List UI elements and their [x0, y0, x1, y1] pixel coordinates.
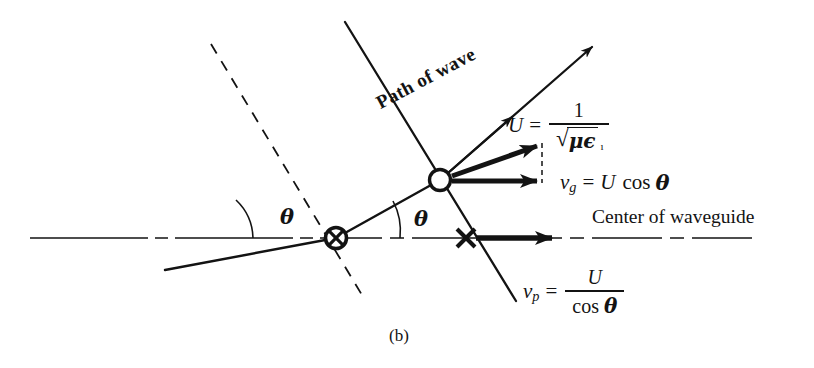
phase-velocity-formula: vp = U cosθ: [523, 266, 626, 318]
wave-ray-lower-segment: [165, 238, 336, 270]
group-velocity-subscript: g: [569, 179, 576, 196]
wave-velocity-formula: U = 1 √ μϵ ı: [508, 99, 611, 153]
wave-velocity-numerator: 1: [567, 99, 591, 123]
phase-velocity-cos: cos: [572, 295, 599, 317]
phase-velocity-denominator: cosθ: [565, 292, 624, 318]
phase-velocity-numerator: U: [581, 266, 609, 290]
center-of-waveguide-label: Center of waveguide: [592, 207, 754, 227]
wave-velocity-lhs: U: [508, 113, 523, 138]
diagram-canvas: [0, 0, 814, 368]
trailing-mark: ı: [600, 140, 603, 152]
group-velocity-rhs-var: U: [600, 170, 615, 195]
phase-velocity-symbol: v: [523, 279, 532, 304]
group-velocity-symbol: v: [560, 170, 569, 195]
wave-velocity-denominator: √ μϵ ı: [549, 125, 609, 153]
theta-label-right: θ: [414, 208, 428, 229]
figure-caption: (b): [389, 327, 409, 344]
square-root-group: √ μϵ: [556, 127, 598, 153]
phase-velocity-equals: =: [545, 279, 557, 304]
group-velocity-cos: cos: [622, 170, 650, 195]
open-circle-node: [430, 170, 451, 191]
path-of-wave-direction-arrow: [440, 117, 512, 180]
phase-velocity-fraction: U cosθ: [565, 266, 624, 318]
wave-velocity-equals: =: [529, 113, 541, 138]
dashed-normal-line: [211, 44, 365, 300]
waveguide-ray-figure: θ θ Path of wave Center of waveguide (b)…: [0, 0, 814, 368]
group-velocity-theta: θ: [655, 170, 669, 195]
group-velocity-formula: vg = U cos θ: [560, 170, 670, 195]
theta-arc-left: [236, 200, 253, 238]
wave-velocity-fraction: 1 √ μϵ ı: [549, 99, 609, 153]
theta-label-left: θ: [280, 206, 294, 227]
phase-velocity-theta: θ: [604, 294, 617, 318]
radicand-mu-epsilon: μϵ: [567, 127, 599, 153]
group-velocity-equals: =: [582, 170, 594, 195]
phase-velocity-subscript: p: [532, 288, 539, 305]
crossed-circle-node: [326, 228, 347, 249]
